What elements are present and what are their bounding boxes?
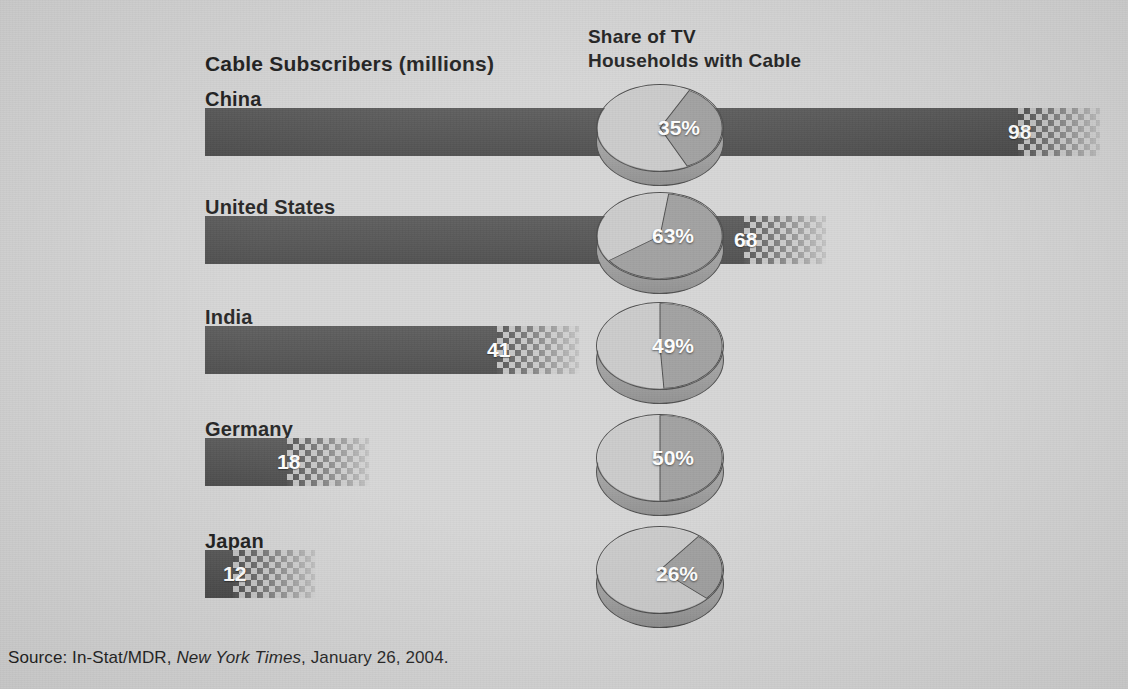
bar-value-label: 18 — [277, 450, 300, 474]
share-title-line-2: Households with Cable — [588, 49, 801, 73]
bar-value-label: 98 — [1008, 120, 1031, 144]
source-suffix: , January 26, 2004. — [301, 648, 448, 667]
bar-body — [205, 216, 826, 264]
source-note: Source: In-Stat/MDR, New York Times, Jan… — [8, 648, 449, 668]
bar-solid-fill — [205, 326, 505, 374]
pie-percent-label: 26% — [656, 562, 698, 586]
bar-value-label: 12 — [223, 562, 246, 586]
pie-percent-label: 35% — [658, 116, 700, 140]
pie-percent-label: 50% — [652, 446, 694, 470]
source-publication: New York Times — [176, 648, 301, 667]
bar-value-label: 68 — [734, 228, 757, 252]
subscribers-column-title: Cable Subscribers (millions) — [205, 52, 494, 76]
subscribers-bar — [205, 326, 579, 374]
pie-percent-label: 63% — [652, 224, 694, 248]
pie-percent-label: 49% — [652, 334, 694, 358]
bar-body — [205, 326, 579, 374]
subscribers-bar — [205, 550, 315, 598]
share-title-line-1: Share of TV — [588, 25, 801, 49]
bar-body — [205, 550, 315, 598]
share-column-title: Share of TV Households with Cable — [588, 25, 801, 73]
source-prefix: Source: In-Stat/MDR, — [8, 648, 176, 667]
bar-value-label: 41 — [487, 338, 510, 362]
subscribers-bar — [205, 216, 826, 264]
